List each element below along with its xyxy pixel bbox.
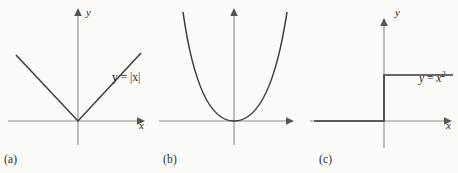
y-axis-label-a: y (86, 6, 91, 18)
curve-parabola (183, 12, 287, 121)
panel-c-plot (305, 0, 458, 173)
function-label-a: y = |x| (112, 71, 140, 83)
figure-three-function-graphs: y x y = |x| (a) y x y = x2 (b) (0, 0, 458, 173)
panel-a-absolute-value: y x y = |x| (a) (0, 0, 153, 173)
caption-a: (a) (4, 153, 17, 165)
y-axis-arrowhead-b (230, 8, 238, 16)
y-axis-arrowhead-c (380, 18, 388, 26)
panel-b-parabola: y x y = x2 (b) (153, 0, 305, 173)
panel-c-heaviside-step: y x y = θ(x) (c) (305, 0, 458, 173)
x-axis-arrowhead-b (286, 117, 294, 125)
y-axis-arrowhead-a (74, 8, 82, 16)
panel-b-plot (153, 0, 305, 173)
x-axis-arrowhead-c (444, 117, 452, 125)
caption-c: (c) (319, 153, 332, 165)
caption-b: (b) (163, 153, 177, 165)
panel-a-plot (0, 0, 153, 173)
x-axis-label-a: x (139, 119, 144, 131)
curve-heaviside-step (314, 75, 453, 121)
